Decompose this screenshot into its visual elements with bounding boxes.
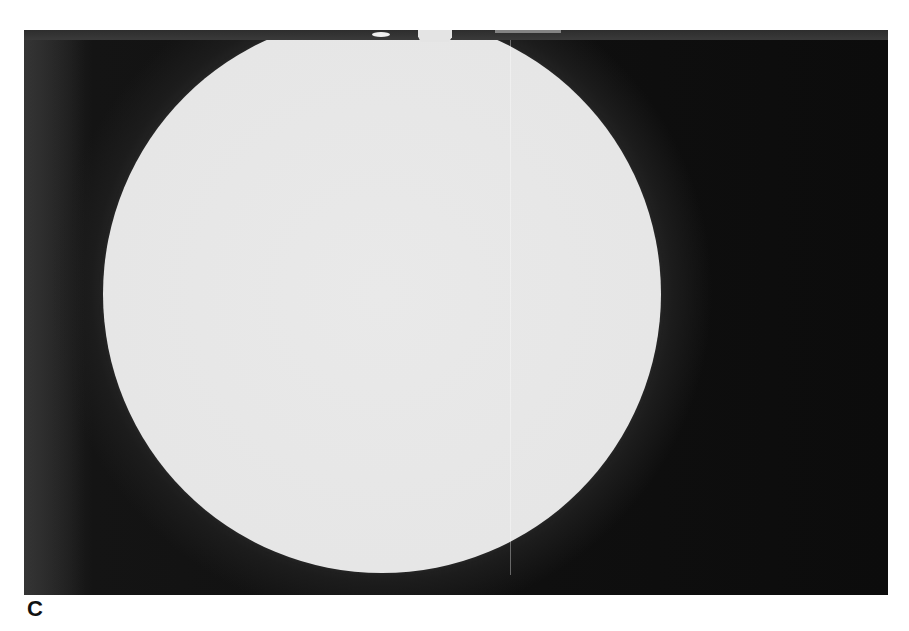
micrograph-panel xyxy=(24,30,888,595)
panel-label: C xyxy=(27,598,43,620)
bright-circular-disc xyxy=(103,30,661,573)
figure: C xyxy=(0,0,909,631)
scale-bar xyxy=(495,30,561,33)
edge-vignette xyxy=(24,30,84,595)
top-edge-shadow xyxy=(24,30,888,40)
disc-top-notch xyxy=(418,30,452,42)
vertical-line-artifact xyxy=(510,40,511,575)
specular-reflection xyxy=(372,32,390,37)
